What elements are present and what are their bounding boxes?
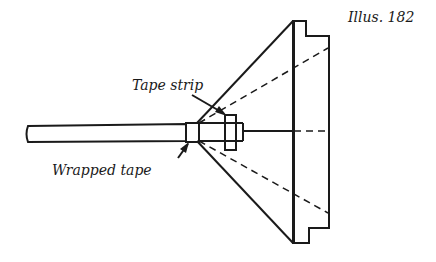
illustration-caption: Illus. 182 bbox=[348, 10, 414, 24]
tape-strip bbox=[225, 115, 236, 150]
illustration-drawing bbox=[0, 0, 436, 262]
wrapped-tape-arrowhead bbox=[180, 142, 189, 153]
arrowheads bbox=[180, 106, 227, 153]
wrapped-tape-label: Wrapped tape bbox=[52, 163, 152, 177]
wrapped-tape-band bbox=[186, 123, 199, 142]
rod bbox=[27, 124, 187, 142]
cone-lower-edge bbox=[197, 141, 293, 243]
cone-rim bbox=[293, 21, 329, 243]
tape-strip-label: Tape strip bbox=[132, 78, 203, 92]
diagram-canvas bbox=[0, 0, 436, 262]
cone-upper-edge bbox=[197, 21, 293, 123]
